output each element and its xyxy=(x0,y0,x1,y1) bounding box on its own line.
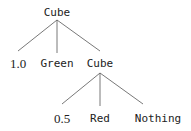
child-node-cube: Cube xyxy=(87,58,114,69)
root-node-cube: Cube xyxy=(44,7,71,18)
leaf-node-green: Green xyxy=(40,58,73,69)
leaf-node-nothing: Nothing xyxy=(135,113,181,124)
edge-cube-to-nothing xyxy=(100,73,143,104)
edge-root-to-cube xyxy=(57,20,100,51)
edge-root-to-1-0 xyxy=(18,20,57,51)
leaf-node-0-5: 0.5 xyxy=(54,112,70,125)
leaf-node-red: Red xyxy=(90,113,110,124)
edge-cube-to-0-5 xyxy=(62,73,100,104)
leaf-node-1-0: 1.0 xyxy=(10,57,26,70)
